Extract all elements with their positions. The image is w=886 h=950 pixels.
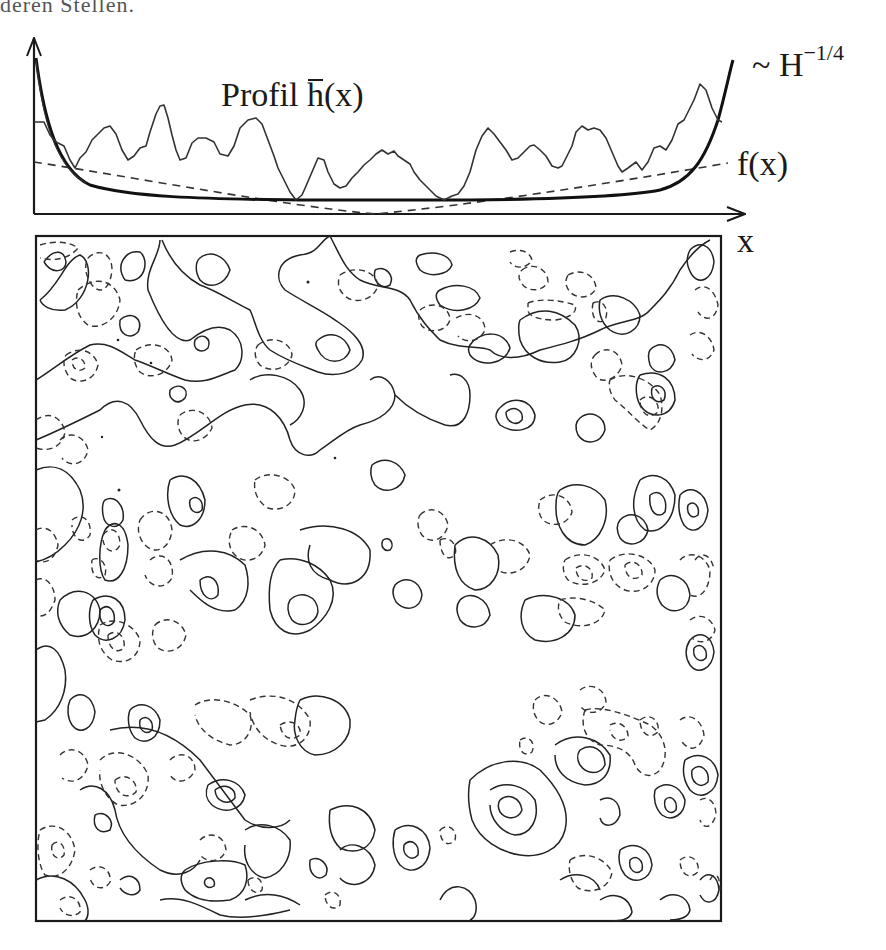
asymptote-curve [36,58,733,200]
profile-plot [34,38,745,214]
contour-map [36,236,721,921]
h-bar-symbol: h [307,76,324,114]
asymptote-label-text: ~ H [752,46,803,83]
contour-point-marks [101,281,337,492]
profile-curve-h [34,84,722,200]
asymptote-exponent: −1/4 [803,40,844,65]
fit-label: f(x) [737,145,788,183]
profile-title-text: Profil [221,76,307,113]
profile-title-label: Profil h(x) [221,76,364,114]
profile-title-suffix: (x) [324,76,364,113]
asymptote-label: ~ H−1/4 [752,46,844,84]
figure-canvas [0,0,886,950]
x-axis-label: x [737,222,754,260]
